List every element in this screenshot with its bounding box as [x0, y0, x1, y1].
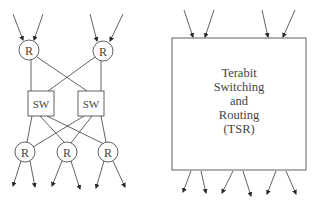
- svg-text:(TSR): (TSR): [223, 122, 254, 136]
- svg-text:SW: SW: [33, 98, 50, 110]
- router-node: R: [93, 41, 113, 61]
- svg-text:Terabit: Terabit: [221, 66, 257, 80]
- router-node: R: [98, 142, 118, 162]
- svg-text:R: R: [99, 45, 107, 59]
- router-node: R: [57, 142, 77, 162]
- svg-text:R: R: [104, 146, 112, 160]
- left-input-arrows: [13, 14, 123, 41]
- tsr-box: Terabit Switching and Routing (TSR): [172, 38, 306, 170]
- svg-text:SW: SW: [83, 98, 100, 110]
- router-node: R: [19, 40, 39, 60]
- svg-text:R: R: [21, 146, 29, 160]
- svg-text:R: R: [25, 44, 33, 58]
- tsr-output-arrows: [183, 171, 296, 196]
- left-output-arrows: [13, 161, 125, 189]
- svg-text:Switching: Switching: [214, 80, 265, 94]
- router-node: R: [15, 142, 35, 162]
- switch-node: SW: [78, 91, 104, 116]
- switch-node: SW: [28, 91, 54, 116]
- svg-text:Routing: Routing: [219, 108, 260, 122]
- svg-text:R: R: [63, 146, 71, 160]
- router-switch-links: [31, 57, 101, 91]
- svg-text:and: and: [230, 94, 249, 108]
- tsr-input-arrows: [184, 10, 295, 37]
- network-diagram: R R SW SW R R R: [0, 0, 319, 204]
